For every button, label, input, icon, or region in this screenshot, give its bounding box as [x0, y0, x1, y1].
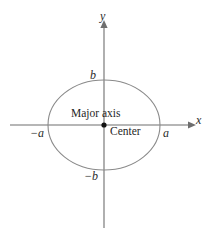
covertex-top-label: b: [90, 69, 96, 81]
y-axis-label: y: [100, 10, 105, 22]
covertex-bottom-label: −b: [84, 170, 98, 182]
center-point-marker: [101, 122, 106, 127]
vertex-right-label: a: [163, 127, 169, 139]
center-label: Center: [110, 126, 141, 138]
vertex-left-label: −a: [30, 127, 44, 139]
x-axis-label: x: [196, 114, 201, 126]
major-axis-label: Major axis: [71, 108, 121, 120]
ellipse-figure: y x −a a b −b Major axis Center: [0, 0, 214, 230]
x-axis-arrowhead: [188, 121, 196, 128]
